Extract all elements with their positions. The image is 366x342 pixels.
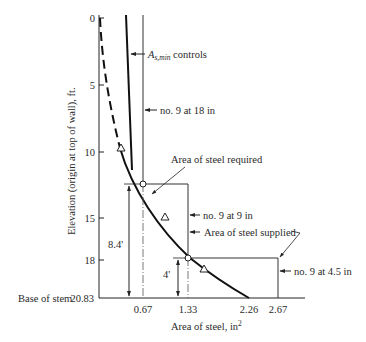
x-tick-133: 1.33 bbox=[179, 304, 197, 315]
steel-required-curve bbox=[120, 148, 249, 298]
bar9-label: no. 9 at 9 in bbox=[203, 210, 254, 221]
dim-4-label: 4' bbox=[163, 269, 170, 280]
x-tick-267: 2.67 bbox=[269, 304, 287, 315]
y-tick-15: 15 bbox=[85, 213, 96, 224]
y-tick-10: 10 bbox=[85, 147, 96, 158]
required-label: Area of steel required bbox=[171, 154, 263, 165]
supplied-label: Area of steel supplied bbox=[204, 227, 297, 238]
x-tick-226: 2.26 bbox=[240, 304, 258, 315]
y-axis-title: Elevation (origin at top of wall), ft. bbox=[66, 87, 78, 235]
bar45-label: no. 9 at 4.5 in bbox=[294, 266, 352, 277]
y-tick-5: 5 bbox=[90, 80, 95, 91]
dim-84-label: 8.4' bbox=[108, 239, 123, 250]
x-tick-067: 0.67 bbox=[134, 304, 152, 315]
asmin-line bbox=[126, 15, 132, 170]
base-of-stem-label: Base of stem bbox=[18, 293, 72, 304]
steel-area-diagram: 0 5 10 15 18 20.83 Base of stem Elevatio… bbox=[0, 0, 366, 342]
y-tick-0: 0 bbox=[90, 13, 95, 24]
y-tick-base: 20.83 bbox=[70, 293, 94, 304]
steel-required-curve-dashed bbox=[100, 18, 120, 148]
bar18-label: no. 9 at 18 in bbox=[160, 105, 216, 116]
y-tick-18: 18 bbox=[85, 255, 96, 266]
required-arrow bbox=[152, 167, 185, 194]
x-axis-title: Area of steel, in2 bbox=[171, 319, 242, 332]
asmin-label: As,min controls bbox=[147, 49, 207, 62]
